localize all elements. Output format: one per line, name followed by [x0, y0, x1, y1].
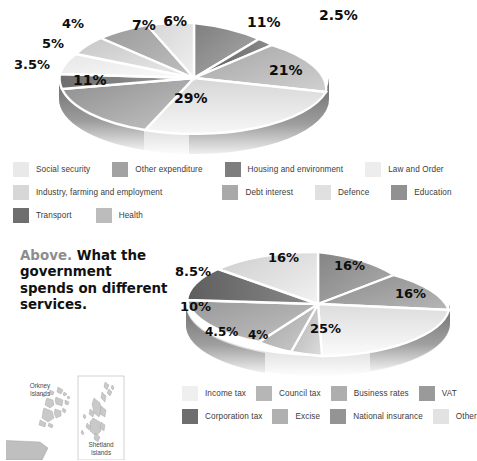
legend-item-transport[interactable]: Transport — [13, 208, 72, 223]
legend-item-law-and-order[interactable]: Law and Order — [365, 162, 443, 177]
pie-svg-top: 11% 2.5% 21% 29% 11% 3.5% 5% 4% 7% 6% — [14, 0, 454, 152]
orkney-label-line1: Orkney — [30, 382, 51, 390]
legend-swatch — [13, 162, 29, 177]
legend-swatch — [272, 409, 288, 424]
legend-item-label: Other expenditure — [135, 165, 202, 174]
legend-row: Industry, farming and employment Debt in… — [13, 185, 457, 200]
legend-item-excise[interactable]: Excise — [272, 409, 320, 424]
legend-item-label: National insurance — [353, 412, 423, 421]
legend-swatch — [96, 208, 112, 223]
pie-svg-bottom: 16% 16% 25% 4% 4.5% 10% 8.5% 16% — [170, 238, 466, 378]
legend-item-social-security[interactable]: Social security — [13, 162, 90, 177]
legend-swatch — [13, 208, 29, 223]
government-income-pie-chart: 16% 16% 25% 4% 4.5% 10% 8.5% 16% — [170, 238, 466, 378]
legend-swatch — [365, 162, 381, 177]
legend-item-label: Corporation tax — [205, 412, 262, 421]
legend-item-label: Defence — [338, 188, 369, 197]
legend-item-label: Excise — [295, 412, 320, 421]
legend-item-label: Transport — [36, 211, 72, 220]
pct-council-tax: 4% — [248, 328, 268, 342]
legend-row: Corporation tax Excise National insuranc… — [182, 409, 466, 424]
legend-item-label: Health — [119, 211, 143, 220]
legend-item-label: Industry, farming and employment — [36, 188, 162, 197]
legend-swatch — [391, 185, 407, 200]
legend-government-spending: Social security Other expenditure Housin… — [13, 162, 457, 223]
pct-corporation-tax: 8.5% — [175, 264, 211, 279]
legend-item-label: Other — [456, 412, 477, 421]
pct-other-expenditure: 11% — [73, 72, 107, 88]
legend-item-business-rates[interactable]: Business rates — [331, 386, 409, 401]
shetland-label-line1: Shetland — [88, 441, 114, 448]
pct-vat: 16% — [395, 286, 426, 301]
legend-item-label: Income tax — [205, 389, 246, 398]
legend-item-education[interactable]: Education — [391, 185, 451, 200]
legend-swatch — [222, 185, 238, 200]
legend-item-label: Social security — [36, 165, 90, 174]
legend-item-health[interactable]: Health — [96, 208, 143, 223]
legend-item-corporation-tax[interactable]: Corporation tax — [182, 409, 262, 424]
legend-item-housing-and-environment[interactable]: Housing and environment — [225, 162, 344, 177]
legend-swatch — [331, 386, 347, 401]
pct-excise: 10% — [180, 299, 211, 314]
legend-item-label: Education — [414, 188, 451, 197]
map-svg: Orkney Islands Shetland Islands — [6, 368, 166, 460]
caption-lead: Above. — [20, 248, 72, 263]
legend-item-label: Debt interest — [245, 188, 293, 197]
pct-transport: 2.5% — [319, 7, 358, 23]
legend-item-label: Council tax — [279, 389, 321, 398]
government-spending-pie-chart: 11% 2.5% 21% 29% 11% 3.5% 5% 4% 7% 6% — [14, 0, 454, 152]
pct-other: 16% — [268, 250, 299, 265]
legend-item-label: VAT — [442, 389, 457, 398]
legend-item-council-tax[interactable]: Council tax — [256, 386, 321, 401]
pct-health: 21% — [269, 62, 303, 78]
legend-swatch — [419, 386, 435, 401]
legend-item-national-insurance[interactable]: National insurance — [330, 409, 423, 424]
legend-item-vat[interactable]: VAT — [419, 386, 457, 401]
legend-row: Income tax Council tax Business rates VA… — [182, 386, 466, 401]
pct-housing-environment: 3.5% — [14, 57, 50, 72]
legend-swatch — [182, 409, 198, 424]
pct-industry-farming: 4% — [62, 16, 84, 31]
legend-item-label: Housing and environment — [248, 165, 344, 174]
pct-law-and-order: 5% — [42, 36, 64, 51]
pct-education: 11% — [247, 14, 281, 30]
legend-swatch — [225, 162, 241, 177]
legend-swatch — [256, 386, 272, 401]
pct-business-rates: 4.5% — [205, 325, 238, 339]
legend-item-industry-farming-and-employment[interactable]: Industry, farming and employment — [13, 185, 162, 200]
legend-swatch — [13, 185, 29, 200]
legend-row: Transport Health — [13, 208, 457, 223]
legend-item-defence[interactable]: Defence — [315, 185, 369, 200]
legend-swatch — [315, 185, 331, 200]
legend-swatch — [330, 409, 346, 424]
pct-debt-interest: 7% — [132, 17, 156, 33]
pct-national-insurance: 16% — [334, 258, 365, 273]
legend-item-other-expenditure[interactable]: Other expenditure — [112, 162, 202, 177]
mainland-shape — [6, 440, 48, 460]
orkney-label-line2: Islands — [30, 390, 50, 397]
legend-row: Social security Other expenditure Housin… — [13, 162, 457, 177]
legend-item-debt-interest[interactable]: Debt interest — [222, 185, 293, 200]
legend-swatch — [182, 386, 198, 401]
figure-caption: Above. What the government spends on dif… — [20, 248, 170, 313]
legend-swatch — [433, 409, 449, 424]
pct-income-tax: 25% — [310, 321, 341, 336]
legend-swatch — [112, 162, 128, 177]
legend-item-income-tax[interactable]: Income tax — [182, 386, 246, 401]
map-inset-scotland-islands: Orkney Islands Shetland Islands — [6, 368, 166, 460]
legend-government-income: Income tax Council tax Business rates VA… — [182, 386, 466, 424]
pct-social-security: 29% — [174, 90, 208, 106]
pct-defence: 6% — [163, 13, 187, 29]
legend-item-label: Business rates — [354, 389, 409, 398]
legend-item-label: Law and Order — [388, 165, 443, 174]
shetland-label-line2: Islands — [91, 449, 111, 456]
legend-item-other[interactable]: Other — [433, 409, 477, 424]
pie-slices-bottom — [187, 252, 449, 356]
